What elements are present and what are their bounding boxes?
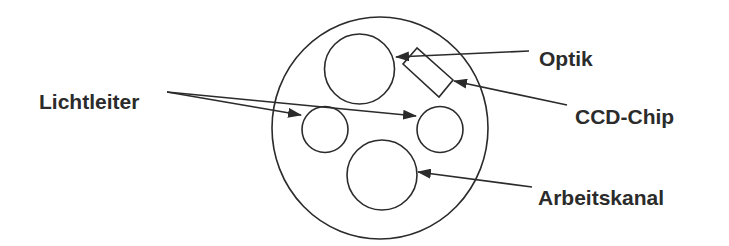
label-lichtleiter: Lichtleiter — [39, 90, 139, 113]
arbeitskanal-arrow — [418, 172, 532, 187]
lichtleiter-left-circle — [302, 107, 348, 153]
ccd-chip-arrow — [454, 81, 567, 105]
label-arbeitskanal: Arbeitskanal — [538, 186, 664, 209]
lichtleiter-right-circle — [417, 107, 463, 153]
endoscope-diagram: Lichtleiter Optik CCD-Chip Arbeitskanal — [0, 0, 729, 246]
arbeitskanal-circle — [347, 140, 417, 210]
label-ccd-chip: CCD-Chip — [575, 105, 674, 128]
lichtleiter-arrow-right — [167, 92, 416, 116]
outer-sheath-circle — [272, 17, 488, 239]
label-optik: Optik — [539, 47, 593, 70]
optik-circle — [325, 34, 395, 104]
